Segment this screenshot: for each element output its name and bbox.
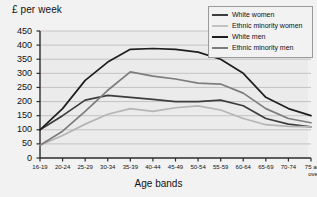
x-tick-label: 70-74 [271, 164, 305, 171]
legend-label-white-women: White women [232, 11, 274, 19]
legend-label-white-men: White men [232, 33, 265, 41]
y-tick-label: 50 [6, 139, 32, 148]
y-tick-label: 150 [6, 111, 32, 120]
legend-item-white-men[interactable]: White men [212, 32, 309, 42]
y-tick-label: 350 [6, 55, 32, 64]
legend-swatch-white-men [212, 36, 228, 38]
y-tick-label: 300 [6, 69, 32, 78]
legend-swatch-ethnic-minority-women [212, 25, 228, 27]
chart-container: £ per week 050100150200250300350400450 1… [0, 0, 317, 197]
legend-item-white-women[interactable]: White women [212, 10, 309, 20]
legend-label-ethnic-minority-women: Ethnic minority women [232, 22, 302, 30]
y-tick-label: 250 [6, 83, 32, 92]
y-tick-label: 0 [6, 154, 32, 163]
y-tick-label: 450 [6, 27, 32, 36]
y-tick-label: 200 [6, 97, 32, 106]
legend-swatch-ethnic-minority-men [212, 47, 228, 49]
legend-label-ethnic-minority-men: Ethnic minority men [232, 44, 293, 52]
legend-item-ethnic-minority-women[interactable]: Ethnic minority women [212, 21, 309, 31]
legend-item-ethnic-minority-men[interactable]: Ethnic minority men [212, 43, 309, 53]
y-tick-label: 100 [6, 125, 32, 134]
legend-swatch-white-women [212, 14, 228, 16]
y-tick-label: 400 [6, 41, 32, 50]
chart-legend: White women Ethnic minority women White … [208, 6, 313, 58]
x-tick-label: 75 and over [304, 164, 317, 178]
x-axis-title: Age bands [0, 178, 317, 189]
